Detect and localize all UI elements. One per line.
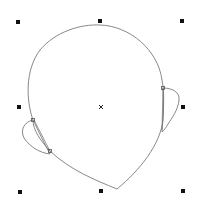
handle-top-right[interactable] xyxy=(180,19,184,23)
handle-bottom-right[interactable] xyxy=(181,189,185,193)
left-ear-inner-line xyxy=(34,120,51,153)
handle-middle-left[interactable] xyxy=(17,105,21,109)
handle-bottom-left[interactable] xyxy=(18,190,22,194)
handle-middle-right[interactable] xyxy=(181,105,185,109)
handle-top-center[interactable] xyxy=(98,19,102,23)
head-outline-path[interactable] xyxy=(28,25,164,189)
handle-bottom-center[interactable] xyxy=(99,189,103,193)
handle-top-left[interactable] xyxy=(16,20,20,24)
drawing-canvas[interactable] xyxy=(0,0,199,212)
center-marker-icon[interactable] xyxy=(99,105,103,109)
right-ear-path[interactable] xyxy=(162,88,179,132)
